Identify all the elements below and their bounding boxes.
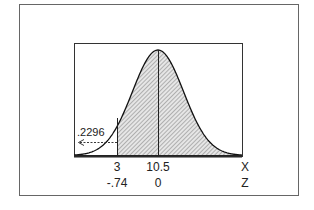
z-tick-cutoff: -.74	[107, 176, 128, 190]
x-tick-cutoff: 3	[114, 160, 121, 174]
x-tick-mean: 10.5	[146, 160, 170, 174]
z-tick-mean: 0	[155, 176, 162, 190]
x-axis-label: X	[241, 160, 249, 174]
z-axis-label: Z	[241, 176, 248, 190]
normal-distribution-figure: .2296 3 10.5 X -.74 0 Z	[0, 0, 314, 210]
tail-area-label: .2296	[77, 126, 105, 138]
